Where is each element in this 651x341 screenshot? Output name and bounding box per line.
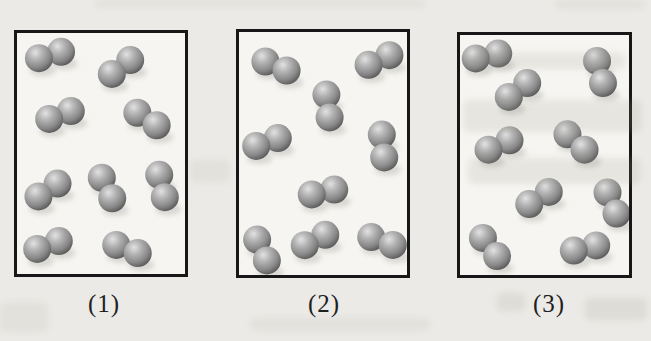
- atom-sphere: [379, 231, 407, 259]
- atom-sphere: [316, 103, 344, 131]
- panel-label-2: (2): [308, 291, 340, 316]
- particle-box-1: [14, 30, 188, 277]
- bleed-through-artifact: [250, 318, 430, 331]
- atom-sphere: [462, 44, 490, 72]
- panel-label-1: (1): [88, 291, 120, 316]
- atom-sphere: [560, 237, 588, 265]
- atom-sphere: [273, 56, 301, 84]
- bleed-through-artifact: [95, 0, 425, 7]
- atom-sphere: [124, 239, 152, 267]
- atom-sphere: [291, 231, 319, 259]
- atom-sphere: [495, 83, 523, 111]
- atom-sphere: [355, 51, 383, 79]
- particle-box-2: [236, 29, 410, 278]
- bleed-through-artifact: [585, 298, 647, 320]
- atom-sphere: [98, 184, 126, 212]
- atom-sphere: [151, 183, 179, 211]
- atom-sphere: [35, 105, 63, 133]
- atom-sphere: [474, 136, 502, 164]
- atom-sphere: [23, 235, 51, 263]
- atom-sphere: [571, 136, 599, 164]
- molecules-canvas-2: [239, 32, 407, 275]
- particle-box-3: [457, 32, 632, 278]
- bleed-through-artifact: [555, 0, 645, 9]
- bleed-through-artifact: [190, 160, 230, 182]
- atom-sphere: [589, 69, 617, 97]
- bleed-through-artifact: [497, 293, 525, 311]
- molecules-canvas-1: [17, 33, 185, 274]
- bleed-through-artifact: [0, 302, 48, 332]
- atom-sphere: [25, 44, 53, 72]
- atom-sphere: [370, 143, 398, 171]
- atom-sphere: [483, 242, 511, 270]
- atom-sphere: [298, 180, 326, 208]
- panel-label-3: (3): [533, 291, 565, 316]
- atom-sphere: [98, 60, 126, 88]
- atom-sphere: [253, 246, 281, 274]
- atom-sphere: [143, 111, 171, 139]
- particulate-diagram-figure: (1) (2) (3): [0, 0, 651, 341]
- atom-sphere: [515, 190, 543, 218]
- atom-sphere: [242, 132, 270, 160]
- molecules-canvas-3: [460, 35, 629, 275]
- atom-sphere: [24, 182, 52, 210]
